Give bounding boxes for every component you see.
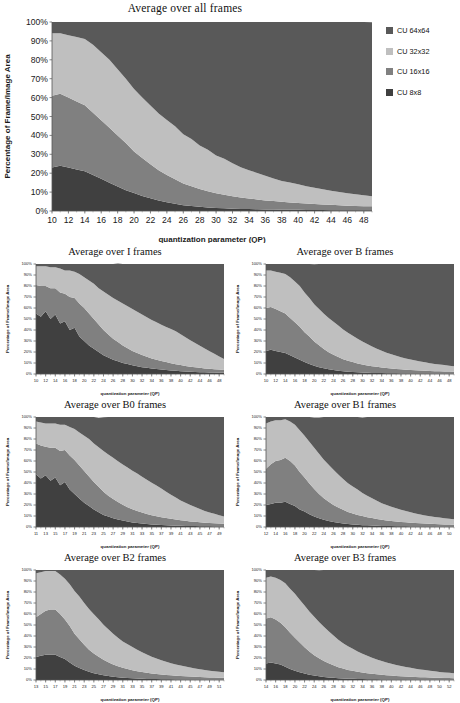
svg-text:Percentage of Frame/Image Area: Percentage of Frame/Image Area — [5, 284, 10, 353]
svg-text:25: 25 — [101, 531, 106, 536]
svg-text:30: 30 — [341, 684, 346, 689]
svg-text:30%: 30% — [24, 644, 33, 649]
svg-text:17: 17 — [63, 531, 68, 536]
svg-text:48: 48 — [428, 684, 433, 689]
svg-text:40%: 40% — [31, 130, 49, 140]
svg-text:49: 49 — [217, 531, 222, 536]
svg-text:28: 28 — [331, 684, 336, 689]
main-chart-plot: 0%10%20%30%40%50%60%70%80%90%100%1012141… — [0, 18, 380, 243]
svg-text:13: 13 — [43, 531, 48, 536]
svg-text:90%: 90% — [254, 578, 263, 583]
svg-text:12: 12 — [273, 378, 278, 383]
svg-text:30%: 30% — [24, 491, 33, 496]
svg-text:46: 46 — [418, 684, 423, 689]
svg-text:34: 34 — [370, 531, 375, 536]
svg-text:27: 27 — [111, 531, 116, 536]
svg-text:34: 34 — [149, 378, 154, 383]
svg-text:0%: 0% — [26, 524, 32, 529]
svg-text:50%: 50% — [24, 622, 33, 627]
svg-text:37: 37 — [159, 531, 164, 536]
chart-title-b3-frames: Average over B3 frames — [230, 552, 460, 563]
svg-text:28: 28 — [350, 378, 355, 383]
svg-text:40: 40 — [399, 531, 404, 536]
svg-text:14: 14 — [80, 215, 90, 225]
svg-text:70%: 70% — [24, 294, 33, 299]
svg-text:12: 12 — [64, 215, 74, 225]
svg-text:quantization parameter (QP): quantization parameter (QP) — [158, 235, 265, 243]
svg-text:70%: 70% — [254, 294, 263, 299]
svg-text:50%: 50% — [254, 316, 263, 321]
svg-text:18: 18 — [293, 531, 298, 536]
svg-text:38: 38 — [169, 378, 174, 383]
svg-text:10%: 10% — [254, 666, 263, 671]
legend-swatch-cu-32x32 — [386, 48, 393, 55]
svg-text:36: 36 — [159, 378, 164, 383]
svg-text:18: 18 — [72, 378, 77, 383]
svg-text:90%: 90% — [24, 425, 33, 430]
svg-text:32: 32 — [370, 378, 375, 383]
svg-text:14: 14 — [273, 531, 278, 536]
svg-text:52: 52 — [447, 684, 452, 689]
svg-text:40%: 40% — [254, 480, 263, 485]
svg-text:16: 16 — [273, 684, 278, 689]
svg-text:14: 14 — [283, 378, 288, 383]
svg-text:38: 38 — [379, 684, 384, 689]
svg-text:50%: 50% — [24, 469, 33, 474]
svg-text:26: 26 — [322, 684, 327, 689]
svg-text:44: 44 — [428, 378, 433, 383]
svg-text:26: 26 — [341, 378, 346, 383]
svg-text:quantization parameter (QP): quantization parameter (QP) — [331, 697, 390, 702]
svg-text:20: 20 — [312, 378, 317, 383]
svg-text:50%: 50% — [254, 469, 263, 474]
svg-text:90%: 90% — [254, 272, 263, 277]
svg-text:90%: 90% — [24, 578, 33, 583]
svg-text:30: 30 — [360, 378, 365, 383]
svg-text:18: 18 — [302, 378, 307, 383]
svg-text:38: 38 — [277, 215, 287, 225]
chart-plot-i-frames: 0%10%20%30%40%50%60%70%80%90%100%1012141… — [0, 260, 230, 396]
svg-text:48: 48 — [217, 378, 222, 383]
chart-title-b1-frames: Average over B1 frames — [230, 399, 460, 410]
svg-text:46: 46 — [207, 378, 212, 383]
svg-text:29: 29 — [120, 531, 125, 536]
svg-text:24: 24 — [101, 378, 106, 383]
svg-text:27: 27 — [101, 684, 106, 689]
svg-text:49: 49 — [207, 684, 212, 689]
svg-text:18: 18 — [113, 215, 123, 225]
chart-title-b0-frames: Average over B0 frames — [0, 399, 230, 410]
svg-text:70%: 70% — [24, 600, 33, 605]
legend-label-cu-8x8: CU 8x8 — [397, 88, 421, 97]
svg-text:100%: 100% — [22, 261, 33, 266]
svg-text:34: 34 — [360, 684, 365, 689]
chart-legend: CU 64x64 CU 32x32 CU 16x16 CU 8x8 — [386, 26, 460, 108]
svg-text:0%: 0% — [256, 677, 262, 682]
svg-text:40%: 40% — [254, 327, 263, 332]
svg-text:10: 10 — [34, 378, 39, 383]
chart-title-b-frames: Average over B frames — [230, 246, 460, 257]
svg-text:70%: 70% — [254, 600, 263, 605]
svg-text:0%: 0% — [26, 371, 32, 376]
svg-text:14: 14 — [264, 684, 269, 689]
chart-panel-b3-frames: Average over B3 frames 0%10%20%30%40%50%… — [230, 549, 460, 702]
chart-title-b2-frames: Average over B2 frames — [0, 552, 230, 563]
svg-text:42: 42 — [310, 215, 320, 225]
svg-text:80%: 80% — [24, 283, 33, 288]
svg-text:48: 48 — [437, 531, 442, 536]
svg-text:20: 20 — [293, 684, 298, 689]
svg-text:10%: 10% — [254, 513, 263, 518]
svg-text:44: 44 — [418, 531, 423, 536]
svg-text:32: 32 — [140, 378, 145, 383]
svg-text:45: 45 — [198, 531, 203, 536]
svg-text:60%: 60% — [24, 611, 33, 616]
svg-text:12: 12 — [43, 378, 48, 383]
svg-text:80%: 80% — [31, 55, 49, 65]
svg-text:26: 26 — [331, 531, 336, 536]
chart-plot-b1-frames: 0%10%20%30%40%50%60%70%80%90%100%1214161… — [230, 413, 460, 549]
svg-text:Percentage of Frame/Image Area: Percentage of Frame/Image Area — [5, 590, 10, 659]
svg-text:10%: 10% — [31, 187, 49, 197]
svg-text:0%: 0% — [256, 524, 262, 529]
svg-text:33: 33 — [130, 684, 135, 689]
svg-text:40: 40 — [178, 378, 183, 383]
svg-text:30: 30 — [130, 378, 135, 383]
svg-text:13: 13 — [34, 684, 39, 689]
